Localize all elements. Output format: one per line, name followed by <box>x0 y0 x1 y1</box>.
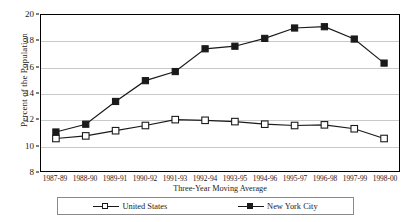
data-point-marker <box>291 122 298 129</box>
y-axis-tick-label: 18 <box>25 36 34 45</box>
y-axis-tick-label: 14 <box>25 89 34 98</box>
data-point-marker <box>83 121 89 127</box>
data-point-marker <box>53 135 60 142</box>
data-point-marker <box>172 116 179 123</box>
y-axis-tick-label: 10 <box>25 141 34 150</box>
x-axis-tick-label: 1987-89 <box>43 174 68 183</box>
data-point-marker <box>53 129 59 135</box>
x-axis-tick-label: 1988-90 <box>73 174 98 183</box>
legend-entry[interactable]: New York City <box>238 202 318 211</box>
data-point-marker <box>172 68 178 74</box>
x-axis-tick-label: 1992-94 <box>193 174 218 183</box>
y-axis-tick-mark <box>36 172 39 173</box>
y-axis-tick-label: 20 <box>25 10 34 19</box>
legend-entry[interactable]: United States <box>93 202 167 211</box>
data-point-marker <box>321 24 327 30</box>
series-new-york-city <box>53 24 387 135</box>
x-axis-tick-label: 1996-98 <box>313 174 338 183</box>
data-point-marker <box>112 127 119 134</box>
data-point-marker <box>381 60 387 66</box>
y-axis-tick-mark <box>36 119 39 120</box>
data-point-marker <box>351 36 357 42</box>
data-point-marker <box>202 46 208 52</box>
data-point-marker <box>232 118 239 125</box>
data-point-marker <box>202 117 209 124</box>
x-axis-tick-label: 1994-96 <box>253 174 278 183</box>
data-point-marker <box>82 133 89 140</box>
x-axis-tick-label: 1998-00 <box>373 174 398 183</box>
y-axis-tick-label: 16 <box>25 62 34 71</box>
data-point-marker <box>292 25 298 31</box>
y-axis-tick-mark <box>36 93 39 94</box>
x-axis-tick-label: 1993-95 <box>223 174 248 183</box>
data-point-marker <box>262 35 268 41</box>
data-point-marker <box>321 122 328 129</box>
legend-label: New York City <box>267 202 318 211</box>
series-line <box>56 120 384 139</box>
legend-marker-icon <box>93 202 119 211</box>
x-axis-tick-label: 1991-93 <box>163 174 188 183</box>
y-axis-tick-labels: 8101214161820 <box>14 14 34 172</box>
y-axis-tick-mark <box>36 40 39 41</box>
chart-figure: Percent of the Population 8101214161820 … <box>0 0 414 222</box>
data-point-marker <box>232 43 238 49</box>
series-united-states <box>53 116 388 141</box>
y-axis-tick-mark <box>36 66 39 67</box>
series-line <box>56 27 384 132</box>
y-axis-tick-label: 8 <box>30 168 35 177</box>
legend-label: United States <box>122 202 167 211</box>
x-axis-tick-label: 1989-91 <box>103 174 128 183</box>
chart-legend: United StatesNew York City <box>57 197 354 215</box>
x-axis-title: Three-Year Moving Average <box>40 184 400 193</box>
data-point-marker <box>113 98 119 104</box>
plot-area <box>40 14 400 172</box>
y-axis-tick-label: 12 <box>25 115 34 124</box>
y-axis-tick-mark <box>36 145 39 146</box>
x-axis-tick-label: 1990-92 <box>133 174 158 183</box>
legend-marker-icon <box>238 202 264 211</box>
x-axis-tick-label: 1997-99 <box>343 174 368 183</box>
data-point-marker <box>351 125 358 132</box>
series-layer <box>41 15 399 171</box>
data-point-marker <box>142 78 148 84</box>
data-point-marker <box>142 122 149 129</box>
data-point-marker <box>381 135 388 142</box>
x-axis-tick-label: 1995-97 <box>283 174 308 183</box>
data-point-marker <box>261 121 268 128</box>
y-axis-tick-mark <box>36 14 39 15</box>
